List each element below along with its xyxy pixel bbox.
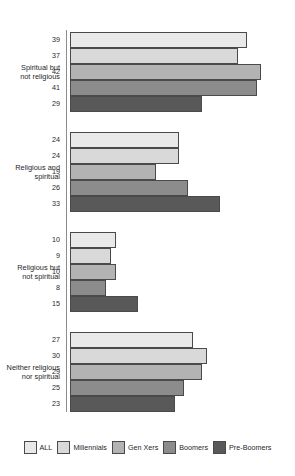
grouped-bar-chart: Spiritual but not religious3937424129Rel… bbox=[0, 0, 295, 476]
bar-row: 24 bbox=[0, 132, 295, 148]
legend-item: Millennials bbox=[57, 441, 107, 454]
bar-value-label: 27 bbox=[0, 332, 60, 348]
bar-row: 24 bbox=[0, 148, 295, 164]
bar-row: 41 bbox=[0, 80, 295, 96]
bar-row: 19 bbox=[0, 164, 295, 180]
legend-swatch bbox=[57, 441, 70, 454]
bar-value-label: 37 bbox=[0, 48, 60, 64]
bar bbox=[70, 64, 261, 80]
bar-row: 29 bbox=[0, 96, 295, 112]
legend-swatch bbox=[213, 441, 226, 454]
legend-item: Pre-Boomers bbox=[213, 441, 271, 454]
bar-value-label: 9 bbox=[0, 248, 60, 264]
legend-item: ALL bbox=[24, 441, 53, 454]
bar-value-label: 10 bbox=[0, 264, 60, 280]
bar bbox=[70, 280, 106, 296]
bar-row: 39 bbox=[0, 32, 295, 48]
bar bbox=[70, 80, 257, 96]
bar-group: Religious but not spiritual10910815 bbox=[0, 232, 295, 312]
bar-group: Spiritual but not religious3937424129 bbox=[0, 32, 295, 112]
bar-row: 9 bbox=[0, 248, 295, 264]
plot-area: Spiritual but not religious3937424129Rel… bbox=[0, 0, 295, 420]
bar-row: 29 bbox=[0, 364, 295, 380]
bar-row: 10 bbox=[0, 264, 295, 280]
bar-value-label: 19 bbox=[0, 164, 60, 180]
bar-value-label: 39 bbox=[0, 32, 60, 48]
bar-row: 30 bbox=[0, 348, 295, 364]
legend-swatch bbox=[163, 441, 176, 454]
bar-row: 37 bbox=[0, 48, 295, 64]
bar bbox=[70, 364, 202, 380]
bar-value-label: 29 bbox=[0, 364, 60, 380]
bar-value-label: 41 bbox=[0, 80, 60, 96]
bar bbox=[70, 148, 179, 164]
bar-row: 23 bbox=[0, 396, 295, 412]
bar-row: 33 bbox=[0, 196, 295, 212]
legend-label: Pre-Boomers bbox=[229, 443, 271, 452]
bar-value-label: 23 bbox=[0, 396, 60, 412]
bar-row: 25 bbox=[0, 380, 295, 396]
bar bbox=[70, 232, 116, 248]
bar-value-label: 29 bbox=[0, 96, 60, 112]
bar-value-label: 8 bbox=[0, 280, 60, 296]
bar-value-label: 10 bbox=[0, 232, 60, 248]
bar bbox=[70, 380, 184, 396]
bar-value-label: 15 bbox=[0, 296, 60, 312]
bar bbox=[70, 132, 179, 148]
bar-value-label: 42 bbox=[0, 64, 60, 80]
bar-value-label: 26 bbox=[0, 180, 60, 196]
legend-swatch bbox=[112, 441, 125, 454]
legend-label: Gen Xers bbox=[128, 443, 158, 452]
bar bbox=[70, 196, 220, 212]
bar bbox=[70, 32, 247, 48]
bar-row: 27 bbox=[0, 332, 295, 348]
bar bbox=[70, 164, 156, 180]
bar-row: 8 bbox=[0, 280, 295, 296]
bar bbox=[70, 296, 138, 312]
bar-row: 10 bbox=[0, 232, 295, 248]
bar bbox=[70, 332, 193, 348]
bar bbox=[70, 264, 116, 280]
bar-value-label: 24 bbox=[0, 148, 60, 164]
bar-group: Religious and spiritual2424192633 bbox=[0, 132, 295, 212]
legend-swatch bbox=[24, 441, 37, 454]
bar bbox=[70, 48, 238, 64]
bar-value-label: 33 bbox=[0, 196, 60, 212]
bar bbox=[70, 96, 202, 112]
bar-value-label: 24 bbox=[0, 132, 60, 148]
legend-label: Millennials bbox=[73, 443, 107, 452]
bar-row: 26 bbox=[0, 180, 295, 196]
bar-value-label: 30 bbox=[0, 348, 60, 364]
bar bbox=[70, 396, 175, 412]
legend-label: ALL bbox=[40, 443, 53, 452]
chart-legend: ALLMillennialsGen XersBoomersPre-Boomers bbox=[0, 432, 295, 462]
bar bbox=[70, 180, 188, 196]
bar bbox=[70, 248, 111, 264]
bar-value-label: 25 bbox=[0, 380, 60, 396]
legend-item: Boomers bbox=[163, 441, 208, 454]
bar-row: 42 bbox=[0, 64, 295, 80]
bar bbox=[70, 348, 207, 364]
bar-row: 15 bbox=[0, 296, 295, 312]
legend-label: Boomers bbox=[179, 443, 208, 452]
bar-group: Neither religious nor spiritual273029252… bbox=[0, 332, 295, 412]
legend-item: Gen Xers bbox=[112, 441, 158, 454]
